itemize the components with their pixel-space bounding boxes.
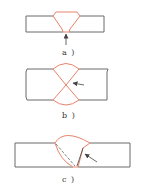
weld-diagrams	[0, 0, 142, 188]
figure-b	[26, 64, 108, 106]
figure-label-b: b )	[62, 111, 76, 120]
figure-label-a: a )	[62, 48, 75, 57]
figure-a	[26, 12, 104, 45]
figure-label-c: c )	[62, 175, 75, 184]
weld-c	[55, 136, 90, 168]
figure-c	[15, 136, 130, 168]
arrow-b	[73, 83, 84, 85]
weld-a	[53, 12, 80, 32]
weld-b-bottom	[53, 85, 79, 105]
arrow-c	[85, 154, 97, 162]
weld-b-top	[53, 64, 79, 86]
